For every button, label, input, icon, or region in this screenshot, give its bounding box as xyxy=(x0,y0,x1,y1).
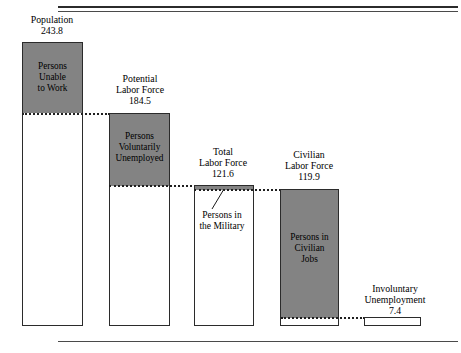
segment-label-persons-in-civilian-jobs: Persons in Civilian Jobs xyxy=(281,232,338,265)
label-iu-line-1: Involuntary xyxy=(372,283,418,294)
label-tlf-line-1: Total xyxy=(213,146,233,157)
label-total-labor-force: Total Labor Force 121.6 xyxy=(185,147,261,180)
label-civilian-labor-force: Civilian Labor Force 119.9 xyxy=(271,150,347,183)
label-population-value: 243.8 xyxy=(22,26,82,37)
callout-mil-line-1: Persons in xyxy=(202,210,241,220)
label-plf-line-1: Potential xyxy=(123,73,158,84)
connector-potential-to-total xyxy=(109,185,196,187)
label-population: Population 243.8 xyxy=(22,15,82,37)
seg1-line-2: Unable xyxy=(39,72,66,82)
seg4-line-3: Jobs xyxy=(301,254,318,264)
seg1-line-1: Persons xyxy=(38,61,67,71)
seg1-line-3: to Work xyxy=(38,83,68,93)
seg2-line-1: Persons xyxy=(125,131,154,141)
bar-civilian-labor-force: Persons in Civilian Jobs xyxy=(280,189,339,326)
label-iu-value: 7.4 xyxy=(354,306,436,317)
bar-population: Persons Unable to Work xyxy=(22,42,83,326)
label-clf-line-1: Civilian xyxy=(293,149,325,160)
callout-persons-in-the-military: Persons in the Military xyxy=(184,210,260,232)
labor-force-diagram: Population 243.8 Persons Unable to Work … xyxy=(0,0,461,353)
label-plf-line-2: Labor Force xyxy=(116,84,164,95)
seg2-line-3: Unemployed xyxy=(115,153,163,163)
bar-involuntary-unemployment xyxy=(364,317,421,326)
label-involuntary-unemployment: Involuntary Unemployment 7.4 xyxy=(354,284,436,317)
connector-population-to-potential xyxy=(22,113,110,115)
label-clf-line-2: Labor Force xyxy=(285,160,333,171)
connector-total-to-civilian xyxy=(194,189,281,191)
label-potential-labor-force: Potential Labor Force 184.5 xyxy=(100,74,180,107)
label-tlf-line-2: Labor Force xyxy=(199,157,247,168)
bottom-rule xyxy=(58,341,458,342)
connector-civilian-to-unemployment xyxy=(281,317,365,319)
label-iu-line-2: Unemployment xyxy=(365,294,426,305)
top-rule-thin xyxy=(58,11,458,12)
bar-potential-labor-force: Persons Voluntarily Unemployed xyxy=(109,113,170,326)
label-plf-value: 184.5 xyxy=(100,96,180,107)
callout-mil-line-2: the Military xyxy=(199,221,244,231)
label-population-line-1: Population xyxy=(31,14,73,25)
label-tlf-value: 121.6 xyxy=(185,169,261,180)
segment-label-persons-unable-to-work: Persons Unable to Work xyxy=(23,61,82,94)
label-clf-value: 119.9 xyxy=(271,172,347,183)
segment-label-persons-voluntarily-unemployed: Persons Voluntarily Unemployed xyxy=(110,131,169,164)
seg2-line-2: Voluntarily xyxy=(119,142,161,152)
seg4-line-2: Civilian xyxy=(295,243,325,253)
top-rule-thick xyxy=(58,6,458,8)
seg4-line-1: Persons in xyxy=(290,232,328,242)
